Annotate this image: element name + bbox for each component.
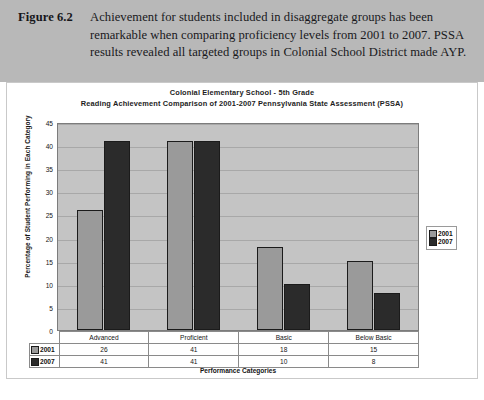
y-tick-label: 15: [46, 258, 53, 265]
bar-group: [328, 124, 418, 330]
y-tick-label: 40: [46, 143, 53, 150]
table-column-header: Below Basic: [329, 332, 419, 344]
table-column-header: Advanced: [59, 332, 149, 344]
y-tick-label: 10: [46, 281, 53, 288]
figure-caption-text: Achievement for students included in dis…: [90, 9, 472, 62]
legend-item-2007: 2007: [429, 238, 453, 246]
legend-swatch-icon: [429, 230, 437, 238]
table-cell: 41: [149, 356, 239, 368]
series-label: 2007: [40, 358, 55, 365]
table-cell: 15: [329, 344, 419, 356]
series-label: 2001: [40, 346, 55, 353]
bar-proficient-2001: [167, 141, 193, 331]
table-header-row: AdvancedProficientBasicBelow Basic: [30, 332, 419, 344]
bar-below-basic-2001: [347, 261, 373, 330]
table-row: 200126411815: [30, 344, 419, 356]
y-tick-label: 35: [46, 166, 53, 173]
bar-below-basic-2007: [374, 293, 400, 330]
row-header-inner: 2007: [31, 358, 59, 366]
table-column-header: Basic: [239, 332, 329, 344]
bars-layer: [58, 124, 418, 330]
y-tick-label: 25: [46, 212, 53, 219]
y-tick-label: 30: [46, 189, 53, 196]
figure-page: Figure 6.2 Achievement for students incl…: [0, 0, 484, 400]
chart-legend: 20012007: [426, 226, 457, 250]
figure-caption-band: Figure 6.2 Achievement for students incl…: [0, 0, 484, 82]
bar-group: [58, 124, 148, 330]
table-cell: 8: [329, 356, 419, 368]
table-cell: 41: [59, 356, 149, 368]
table-cell: 41: [149, 344, 239, 356]
legend-label: 2001: [438, 230, 453, 238]
series-swatch-icon: [31, 346, 39, 354]
legend-item-2001: 2001: [429, 230, 453, 238]
y-tick-label: 20: [46, 235, 53, 242]
table-row-header-2001: 2001: [30, 344, 60, 356]
y-tick-label: 5: [49, 304, 53, 311]
figure-caption: Figure 6.2 Achievement for students incl…: [18, 9, 472, 62]
data-table: AdvancedProficientBasicBelow Basic200126…: [29, 331, 419, 368]
table-cell: 10: [239, 356, 329, 368]
bar-basic-2001: [257, 247, 283, 330]
table-cell: 26: [59, 344, 149, 356]
legend-swatch-icon: [429, 238, 437, 246]
row-header-inner: 2001: [31, 346, 59, 354]
figure-number-label: Figure 6.2: [18, 9, 90, 27]
legend-label: 2007: [438, 238, 453, 246]
y-axis-ticks: 051015202530354045: [29, 123, 55, 331]
bar-group: [148, 124, 238, 330]
chart-container: Colonial Elementary School - 5th Grade R…: [6, 82, 478, 379]
table-cell: 18: [239, 344, 329, 356]
table-column-header: Proficient: [149, 332, 239, 344]
x-axis-title: Performance Categories: [57, 367, 419, 374]
bar-group: [238, 124, 328, 330]
series-swatch-icon: [31, 358, 39, 366]
bar-advanced-2001: [77, 210, 103, 330]
table-row: 20074141108: [30, 356, 419, 368]
table-corner-cell: [30, 332, 60, 344]
bar-advanced-2007: [104, 141, 130, 331]
y-tick-label: 45: [46, 120, 53, 127]
table-row-header-2007: 2007: [30, 356, 60, 368]
plot-area: [57, 123, 419, 331]
bar-proficient-2007: [194, 141, 220, 331]
plot-wrapper: Percentage of Student Performing in Each…: [7, 83, 479, 380]
bar-basic-2007: [284, 284, 310, 330]
